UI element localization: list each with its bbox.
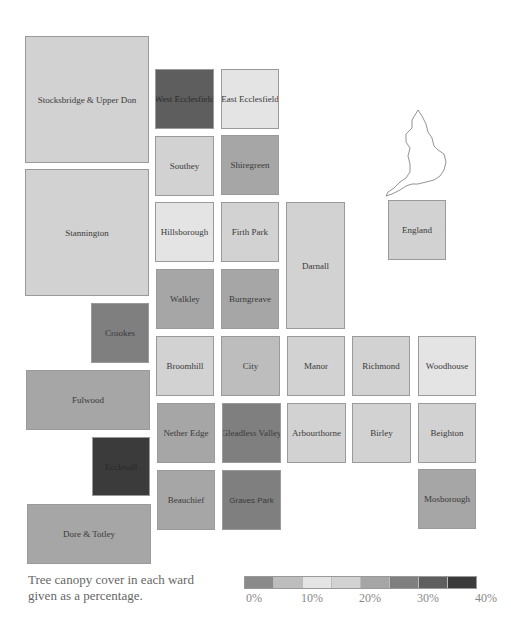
- ward-label: Woodhouse: [426, 361, 468, 371]
- ward-tile-east-ecclesfield: East Ecclesfield: [221, 69, 279, 129]
- ward-label: Walkley: [170, 294, 200, 304]
- ward-label: Firth Park: [232, 227, 268, 237]
- ward-tile-ecclesall: Ecclesall: [92, 437, 150, 496]
- color-legend: [244, 576, 477, 589]
- ward-label: Crookes: [105, 328, 135, 338]
- ward-tile-graves-park: Graves Park: [222, 470, 281, 530]
- ward-tile-beauchief: Beauchief: [157, 470, 215, 530]
- ward-label: Broomhill: [166, 361, 203, 371]
- ward-label: Stocksbridge & Upper Don: [38, 95, 137, 105]
- ward-label: Southey: [170, 161, 200, 171]
- ward-label: Darnall: [302, 261, 329, 271]
- ward-tile-southey: Southey: [155, 136, 214, 196]
- ward-tile-shiregreen: Shiregreen: [221, 135, 279, 195]
- ward-tile-richmond: Richmond: [352, 336, 410, 396]
- ward-tile-city: City: [221, 336, 280, 396]
- ward-label: England: [402, 225, 432, 235]
- legend-swatch: [303, 577, 332, 588]
- ward-label: Nether Edge: [163, 428, 208, 438]
- caption-line-2: given as a percentage.: [28, 588, 194, 604]
- legend-swatch: [448, 577, 476, 588]
- ward-tile-woodhouse: Woodhouse: [418, 336, 476, 396]
- ward-label: West Ecclesfield: [155, 94, 214, 104]
- ward-label: Manor: [304, 361, 328, 371]
- legend-swatch: [332, 577, 361, 588]
- legend-swatch: [390, 577, 419, 588]
- ward-label: Hillsborough: [161, 227, 209, 237]
- ward-tile-england: England: [388, 200, 446, 260]
- ward-label: City: [243, 361, 259, 371]
- legend-swatch: [274, 577, 303, 588]
- ward-tile-west-ecclesfield: West Ecclesfield: [155, 69, 214, 129]
- ward-tile-gleadless-valley: Gleadless Valley: [222, 403, 281, 463]
- legend-tick-label: 10%: [301, 591, 323, 606]
- ward-label: Fulwood: [72, 395, 104, 405]
- ward-label: Burngreave: [229, 294, 271, 304]
- ward-tile-stannington: Stannington: [25, 169, 149, 296]
- legend-tick-label: 0%: [246, 591, 262, 606]
- ward-label: Arbourthorne: [292, 428, 341, 438]
- ward-tile-manor: Manor: [287, 336, 345, 396]
- ward-tile-hillsborough: Hillsborough: [155, 202, 214, 262]
- ward-tile-fulwood: Fulwood: [26, 370, 150, 430]
- ward-tile-birley: Birley: [352, 403, 411, 463]
- ward-label: Birley: [370, 428, 393, 438]
- ward-tile-darnall: Darnall: [286, 202, 345, 329]
- legend-swatch: [361, 577, 390, 588]
- ward-label: Gleadless Valley: [222, 428, 281, 438]
- legend-tick-label: 30%: [417, 591, 439, 606]
- ward-label: Dore & Totley: [63, 529, 115, 539]
- legend-swatch: [419, 577, 448, 588]
- legend-tick-label: 40%: [475, 591, 497, 606]
- ward-tile-crookes: Crookes: [91, 303, 149, 363]
- ward-label: Beighton: [431, 428, 464, 438]
- ward-label: Shiregreen: [231, 160, 270, 170]
- ward-tile-dore-totley: Dore & Totley: [27, 504, 151, 564]
- ward-label: Graves Park: [229, 496, 273, 505]
- ward-tile-firth-park: Firth Park: [221, 202, 279, 262]
- legend-swatch: [245, 577, 274, 588]
- ward-label: Beauchief: [168, 495, 204, 505]
- ward-label: Ecclesall: [105, 462, 137, 472]
- ward-label: Richmond: [362, 361, 400, 371]
- ward-tile-arbourthorne: Arbourthorne: [287, 403, 346, 463]
- ward-tile-nether-edge: Nether Edge: [157, 403, 215, 463]
- ward-label: Stannington: [65, 228, 109, 238]
- chart-caption: Tree canopy cover in each ward given as …: [28, 572, 194, 604]
- ward-tile-broomhill: Broomhill: [156, 336, 214, 396]
- england-outline-map-icon: [382, 106, 454, 198]
- ward-tile-stocksbridge-upper-don: Stocksbridge & Upper Don: [25, 36, 149, 163]
- ward-tile-burngreave: Burngreave: [221, 269, 279, 329]
- caption-line-1: Tree canopy cover in each ward: [28, 572, 194, 588]
- ward-label: Mosborough: [424, 494, 470, 504]
- ward-tile-beighton: Beighton: [418, 403, 476, 463]
- legend-tick-label: 20%: [359, 591, 381, 606]
- ward-tile-mosborough: Mosborough: [418, 469, 476, 529]
- ward-tile-walkley: Walkley: [156, 269, 214, 329]
- ward-label: East Ecclesfield: [221, 94, 279, 104]
